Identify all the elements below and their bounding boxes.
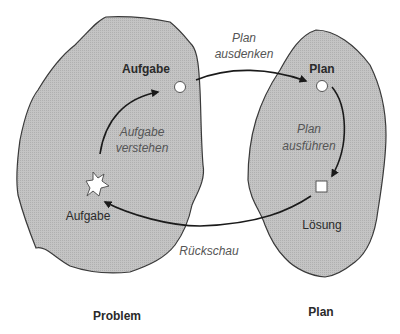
problem-region-label: Problem bbox=[93, 309, 141, 323]
carry-out-label-2: ausführen bbox=[282, 139, 336, 153]
carry-out-label-1: Plan bbox=[297, 122, 321, 136]
devise-label-2: ausdenken bbox=[215, 47, 274, 61]
review-label: Rückschau bbox=[179, 244, 239, 258]
problem-solving-diagram: Aufgabe Plan Aufgabe Lösung Aufgabe vers… bbox=[0, 0, 400, 334]
task-bottom-label: Aufgabe bbox=[66, 209, 111, 223]
understand-label-1: Aufgabe bbox=[119, 125, 165, 139]
solution-node-square bbox=[316, 181, 327, 192]
problem-region bbox=[17, 17, 204, 273]
plan-top-label: Plan bbox=[309, 62, 334, 76]
plan-node-circle bbox=[317, 81, 328, 92]
devise-label-1: Plan bbox=[232, 31, 256, 45]
task-top-label: Aufgabe bbox=[122, 62, 170, 76]
understand-label-2: verstehen bbox=[116, 141, 169, 155]
plan-region-label: Plan bbox=[308, 305, 333, 319]
task-node-circle bbox=[175, 82, 186, 93]
solution-label: Lösung bbox=[302, 218, 341, 232]
